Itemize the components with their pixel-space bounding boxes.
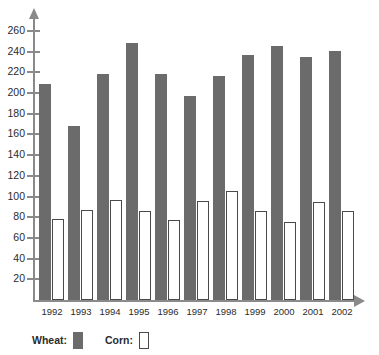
bar-corn xyxy=(255,211,267,300)
x-axis-tick-label: 2002 xyxy=(322,306,362,317)
legend-label-corn: Corn: xyxy=(105,334,133,346)
y-axis-tick-label-wrap: 40 xyxy=(0,253,25,263)
bar-wheat xyxy=(126,43,138,300)
y-axis-tick-label: 80 xyxy=(1,211,25,221)
bar-corn xyxy=(110,200,122,300)
bar-wheat xyxy=(329,51,341,300)
y-axis-tick-label-wrap: 60 xyxy=(0,232,25,242)
y-axis-tick-label: 180 xyxy=(1,108,25,118)
y-axis-tick-label-wrap: 160 xyxy=(0,128,25,138)
y-axis-tick-label-wrap: 260 xyxy=(0,25,25,35)
y-axis-tick-label-wrap: 240 xyxy=(0,46,25,56)
bar-corn xyxy=(168,220,180,300)
y-axis-tick-label-wrap: 220 xyxy=(0,66,25,76)
bar-wheat xyxy=(97,74,109,300)
y-axis-tick-label-wrap: 100 xyxy=(0,191,25,201)
bar-group xyxy=(271,18,300,300)
bar-wheat xyxy=(300,57,312,300)
bar-wheat xyxy=(39,84,51,300)
y-axis-tick-label: 260 xyxy=(1,25,25,35)
legend-swatch-corn xyxy=(139,332,149,349)
y-axis-tick-label: 220 xyxy=(1,66,25,76)
legend-item-wheat: Wheat: xyxy=(32,332,83,349)
bar-wheat xyxy=(213,76,225,301)
bar-wheat xyxy=(271,46,283,301)
y-axis-tick-label: 140 xyxy=(1,149,25,159)
y-axis-tick-label-wrap: 180 xyxy=(0,108,25,118)
bar-corn xyxy=(342,211,354,300)
bar-wheat xyxy=(242,55,254,300)
bar-corn xyxy=(52,219,64,300)
legend-label-wheat: Wheat: xyxy=(32,334,67,346)
bar-wheat xyxy=(184,96,196,300)
bar-group xyxy=(242,18,271,300)
bar-corn xyxy=(81,210,93,300)
bar-group xyxy=(68,18,97,300)
plot-area xyxy=(35,18,355,300)
bar-corn xyxy=(226,191,238,300)
y-axis-tick-label: 120 xyxy=(1,170,25,180)
bar-wheat xyxy=(155,74,167,300)
bar-group xyxy=(184,18,213,300)
y-axis-tick-label: 60 xyxy=(1,232,25,242)
bar-group xyxy=(155,18,184,300)
bar-group xyxy=(213,18,242,300)
y-axis-tick-label-wrap: 140 xyxy=(0,149,25,159)
legend-item-corn: Corn: xyxy=(105,332,149,349)
bar-chart: 26024022020018016014012010080604020 1992… xyxy=(0,0,379,355)
bar-corn xyxy=(313,202,325,300)
bar-group xyxy=(97,18,126,300)
bar-group xyxy=(126,18,155,300)
y-axis-tick-label-wrap: 80 xyxy=(0,211,25,221)
chart-legend: Wheat: Corn: xyxy=(32,330,149,350)
bar-group xyxy=(39,18,68,300)
y-axis-tick-label: 100 xyxy=(1,191,25,201)
y-axis-tick-label: 20 xyxy=(1,273,25,283)
y-axis-tick-label-wrap: 20 xyxy=(0,273,25,283)
bar-corn xyxy=(284,222,296,300)
bar-wheat xyxy=(68,126,80,300)
legend-swatch-wheat xyxy=(73,332,83,349)
bar-corn xyxy=(197,201,209,300)
x-axis-line xyxy=(33,300,355,302)
y-axis-tick-label: 40 xyxy=(1,253,25,263)
y-axis-tick-label: 160 xyxy=(1,128,25,138)
bar-corn xyxy=(139,211,151,300)
y-axis-tick-label-wrap: 120 xyxy=(0,170,25,180)
y-axis-tick-label-wrap: 200 xyxy=(0,87,25,97)
bar-group xyxy=(329,18,358,300)
bar-group xyxy=(300,18,329,300)
y-axis-tick-label: 240 xyxy=(1,46,25,56)
y-axis-tick-label: 200 xyxy=(1,87,25,97)
